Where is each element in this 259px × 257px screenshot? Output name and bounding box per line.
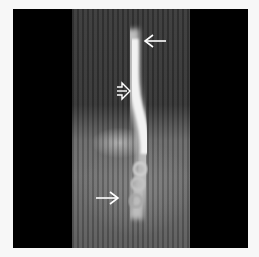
image-frame xyxy=(13,9,248,248)
xray-image xyxy=(72,9,190,248)
esophagus-contrast xyxy=(72,9,190,248)
arrow-lower xyxy=(96,192,118,204)
arrow-upper xyxy=(145,35,166,47)
image-description: Barium swallow radiograph of the esophag… xyxy=(0,0,1,1)
